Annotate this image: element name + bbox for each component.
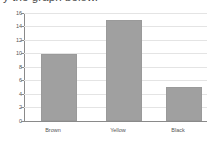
plot-area [24, 13, 207, 121]
x-axis-baseline [24, 121, 207, 122]
y-tick-label-14: 14 [2, 23, 22, 29]
chart-title-clipped-region: y the graph below. [0, 0, 213, 7]
y-tick-label-2: 2 [2, 104, 22, 110]
y-tick-label-16: 16 [2, 10, 22, 16]
x-tick-label-brown: Brown [23, 127, 83, 134]
y-tick-label-10: 10 [2, 50, 22, 56]
bar-brown[interactable] [41, 54, 77, 122]
bar-chart-screenshot: y the graph below. 16 14 12 10 8 6 4 2 0 [0, 0, 213, 141]
y-tick-label-12: 12 [2, 37, 22, 43]
y-tick-label-6: 6 [2, 77, 22, 83]
y-tick-label-8: 8 [2, 64, 22, 70]
bar-yellow[interactable] [106, 20, 142, 121]
x-tick-label-yellow: Yellow [88, 127, 148, 134]
y-tick-label-4: 4 [2, 91, 22, 97]
bar-black[interactable] [166, 87, 202, 121]
gridline-16 [24, 13, 207, 14]
y-tick-label-0: 0 [2, 118, 22, 124]
x-tick-label-black: Black [148, 127, 208, 134]
y-axis-tick-group: 16 14 12 10 8 6 4 2 0 [0, 0, 22, 141]
